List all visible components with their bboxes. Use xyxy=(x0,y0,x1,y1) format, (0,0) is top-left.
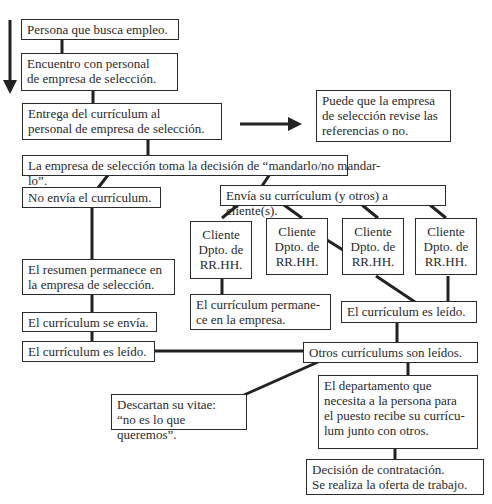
node-otros-curriculums: Otros currículums son leídos. xyxy=(303,342,478,363)
down-arrowhead-icon xyxy=(3,80,17,94)
node-curriculum-se-envia: El currículum se envía. xyxy=(22,312,157,332)
node-envia-clientes: Envía su currículum (y otros) a cliente(… xyxy=(220,185,446,206)
node-revisar-referencias: Puede que la empresa de selección revise… xyxy=(316,90,451,142)
right-arrowhead-icon xyxy=(288,117,302,131)
node-decision-contratacion: Decisión de contratación. Se realiza la … xyxy=(306,459,484,495)
node-decision-mandar-text: La empresa de selección toma la decisión… xyxy=(28,158,380,173)
node-curriculum-permanece: El currículum permane- ce en la empresa. xyxy=(190,294,331,330)
node-decision-mandar: La empresa de selección toma la decisión… xyxy=(22,155,348,176)
node-cliente-1: Cliente Dpto. de RR.HH. xyxy=(190,221,252,279)
node-curriculum-leido-cliente: El currículum es leído. xyxy=(341,301,477,323)
node-curriculum-leido: El currículum es leído. xyxy=(22,341,155,362)
node-decision-mandar-overflow: lo”. xyxy=(28,173,47,188)
node-descartan-vitae: Descartan su vitae: “no es lo que querem… xyxy=(111,394,247,430)
node-resumen-permanece: El resumen permanece en la empresa de se… xyxy=(22,259,175,295)
node-entrega-curriculum: Entrega del currículum al personal de em… xyxy=(22,103,222,140)
node-cliente-4: Cliente Dpto. de RR.HH. xyxy=(415,218,477,275)
node-encuentro-personal: Encuentro con personal de empresa de sel… xyxy=(21,53,178,91)
node-persona-busca-empleo: Persona que busca empleo. xyxy=(21,19,179,40)
node-no-envia: No envía el currículum. xyxy=(22,187,161,208)
node-cliente-3: Cliente Dpto. de RR.HH. xyxy=(342,218,404,275)
node-departamento-recibe: El departamento que necesita a la person… xyxy=(318,375,478,449)
node-cliente-2: Cliente Dpto. de RR.HH. xyxy=(266,218,328,275)
flowchart-canvas: Persona que busca empleo. Encuentro con … xyxy=(0,0,492,504)
